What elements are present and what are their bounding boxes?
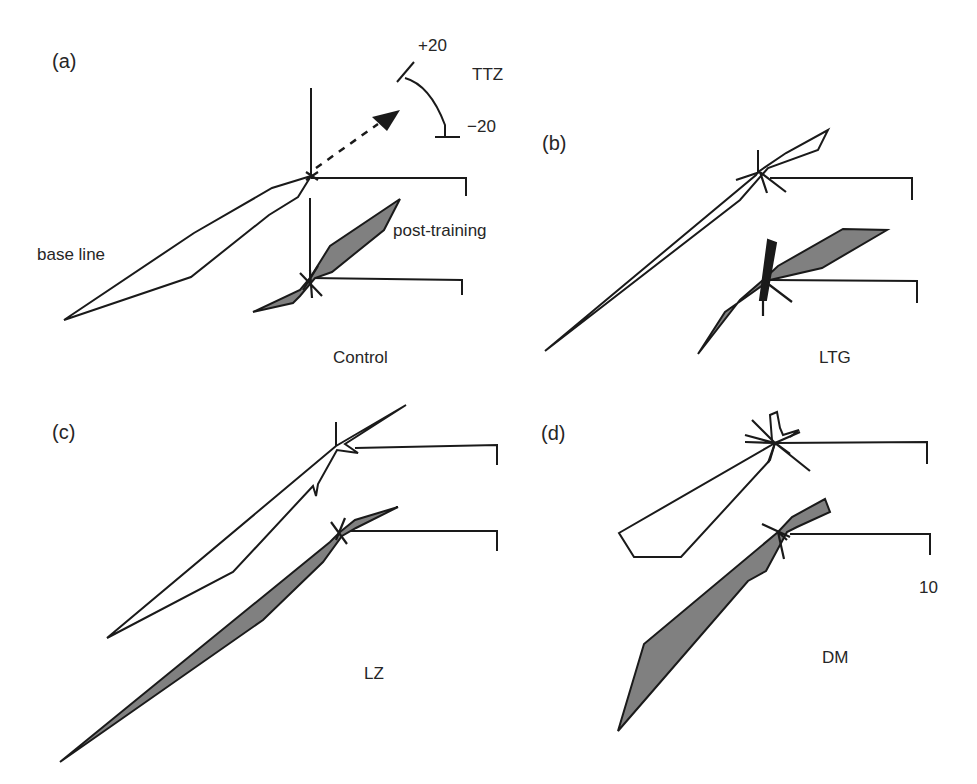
panel-d-label: (d) <box>541 422 565 445</box>
panel-d-baseline-loop <box>770 412 799 440</box>
baseline-legend-label: base line <box>37 245 105 265</box>
panel-d <box>618 412 930 731</box>
panel-a <box>64 62 466 320</box>
panel-a-label: (a) <box>52 50 76 73</box>
condition-dm-label: DM <box>822 648 848 668</box>
panel-a-post-scale-bar <box>310 278 462 295</box>
panel-b-label: (b) <box>542 132 566 155</box>
scale-bar-value-label: 10 <box>919 578 938 598</box>
condition-ltg-label: LTG <box>819 348 851 368</box>
panel-b-baseline-scale-bar <box>770 178 912 200</box>
ttz-dashed-arrow <box>316 124 378 168</box>
post-training-legend-label: post-training <box>393 221 487 241</box>
ttz-plus20-label: +20 <box>418 36 447 56</box>
panel-b-post-training-profile <box>698 229 887 354</box>
panel-d-baseline-profile <box>619 443 775 557</box>
panel-d-post-scale-bar <box>790 534 930 555</box>
condition-lz-label: LZ <box>364 664 384 684</box>
panel-b <box>545 130 917 354</box>
panel-c-label: (c) <box>52 421 75 444</box>
panel-b-post-scale-bar <box>770 280 917 303</box>
panel-a-baseline-scale-bar <box>311 178 466 196</box>
ttz-minus20-label: −20 <box>467 117 496 137</box>
ttz-arrowhead-icon <box>372 110 400 131</box>
ttz-label: TTZ <box>472 65 503 85</box>
condition-control-label: Control <box>333 348 388 368</box>
panel-c-baseline-scale-bar <box>355 445 497 465</box>
panel-a-post-training-profile <box>253 199 400 312</box>
ttz-arc <box>405 78 445 137</box>
panel-c-post-scale-bar <box>350 531 497 551</box>
panel-b-baseline-profile <box>545 130 828 351</box>
panel-c <box>60 405 497 762</box>
